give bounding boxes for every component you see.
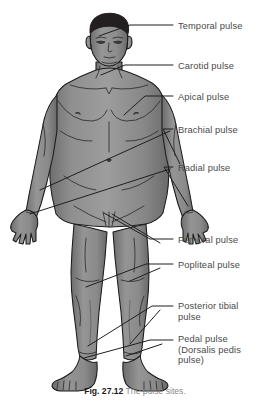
leg-left [71,224,107,360]
label-carotid-pulse: Carotid pulse [178,61,234,72]
eye-right [114,41,122,44]
label-temporal-pulse: Temporal pulse [178,21,242,32]
arm-right [162,95,194,219]
figure-caption-text: The pulse sites. [126,386,186,396]
label-apical-pulse: Apical pulse [178,92,229,103]
ear-left [86,36,91,49]
label-radial-pulse: Radial pulse [178,163,230,174]
label-femoral-pulse: Femoral pulse [178,235,238,246]
pulse-sites-figure: Temporal pulse Carotid pulse Apical puls… [0,0,270,409]
label-pedal-pulse: Pedal pulse (Dorsalis pedis pulse) [178,334,241,366]
figure-caption: Fig. 27.12 The pulse sites. [0,386,270,396]
figure-number: Fig. 27.12 [84,386,123,396]
label-popliteal-pulse: Popliteal pulse [178,260,240,271]
label-brachial-pulse: Brachial pulse [178,125,238,136]
hand-left [11,210,38,244]
ear-right [127,36,132,49]
eye-left [97,41,105,44]
arm-left [25,95,57,219]
leg-right [113,224,149,360]
label-posterior-tibial-pulse: Posterior tibial pulse [178,301,239,322]
